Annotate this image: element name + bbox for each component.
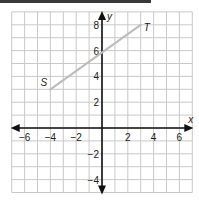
x-tick-label: 4 — [151, 132, 157, 143]
x-tick-label: 2 — [125, 132, 131, 143]
x-tick-label: −4 — [45, 132, 57, 143]
point-t-label: T — [144, 22, 151, 33]
point-s-label: S — [40, 77, 47, 88]
tick-labels: xy−6−4−2246−4−22468 — [19, 11, 194, 186]
y-tick-label: 4 — [93, 71, 99, 82]
y-axis-label: y — [106, 11, 113, 22]
x-tick-label: 6 — [177, 132, 183, 143]
x-axis-label: x — [187, 114, 194, 125]
y-tick-label: −2 — [88, 149, 100, 160]
y-tick-label: −4 — [88, 175, 100, 186]
x-tick-label: −6 — [19, 132, 31, 143]
coordinate-plane: xy−6−4−2246−4−22468 ST — [0, 0, 199, 202]
y-axis-down-arrow-icon — [98, 186, 106, 195]
x-tick-label: −2 — [70, 132, 82, 143]
y-tick-label: 2 — [93, 97, 99, 108]
y-tick-label: 8 — [93, 20, 99, 31]
